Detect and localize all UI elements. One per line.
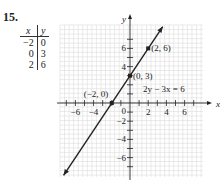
graph: −6−4246−6−4−2460xy(−2, 0)(0, 3)(2, 6)2y … [0,0,221,185]
x-tick-label: 6 [182,107,187,117]
x-tick-label: 2 [146,107,151,117]
point-label: (2, 6) [151,43,171,53]
y-tick-label: −2 [116,116,126,126]
origin-label: 0 [122,106,127,116]
point-label: (0, 3) [133,71,153,81]
x-axis-arrow-icon [207,101,212,105]
x-tick-label: −4 [89,107,99,117]
y-tick-label: −6 [116,153,126,163]
point-label: (−2, 0) [84,89,109,99]
data-point [146,46,150,50]
y-tick-label: −4 [116,134,126,144]
y-tick-label: 4 [122,62,127,72]
x-tick-label: 4 [164,107,169,117]
y-tick-label: 6 [122,43,127,53]
equation-label: 2y − 3x = 6 [143,84,185,94]
y-axis-label: y [121,14,126,24]
y-axis-arrow-icon [128,14,132,19]
data-point [110,101,114,105]
x-tick-label: −6 [71,107,81,117]
data-point [128,74,132,78]
x-axis-label: x [215,99,220,109]
